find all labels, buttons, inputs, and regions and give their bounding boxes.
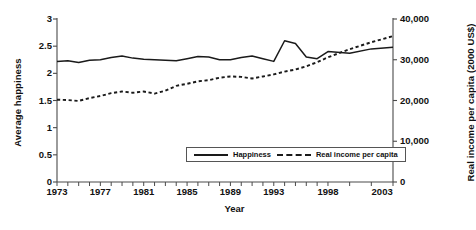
legend-label: Happiness bbox=[233, 150, 271, 159]
chart-legend: HappinessReal income per capita bbox=[186, 147, 406, 162]
legend-label: Real income per capita bbox=[316, 150, 398, 159]
series-line-happiness bbox=[57, 41, 393, 63]
legend-swatch-solid bbox=[194, 154, 228, 156]
legend-item-happiness: Happiness bbox=[194, 150, 271, 159]
legend-item-real-income-per-capita: Real income per capita bbox=[277, 150, 398, 159]
series-lines bbox=[57, 36, 393, 101]
series-line-real-income-per-capita bbox=[57, 36, 393, 101]
legend-swatch-dashed bbox=[277, 154, 311, 156]
